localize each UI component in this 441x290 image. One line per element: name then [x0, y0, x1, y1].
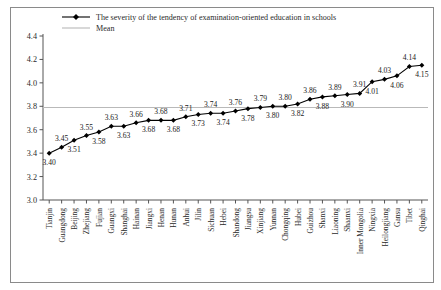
- data-point-label: 3.80: [266, 111, 279, 120]
- data-point-label: 3.58: [92, 137, 105, 146]
- x-axis-tick-label: Zhejiang: [82, 208, 91, 235]
- data-point-label: 3.63: [105, 113, 118, 122]
- data-point-marker: [382, 77, 387, 82]
- y-axis-tick-label: 3.2: [27, 173, 37, 182]
- x-axis-tick-label: Shanghai: [120, 208, 129, 236]
- x-axis-tick-label: Heilongjiang: [381, 208, 390, 247]
- chart-figure: The severity of the tendency of examinat…: [0, 0, 441, 290]
- x-axis-tick-label: Beijing: [70, 208, 79, 230]
- data-point-label: 4.03: [378, 66, 391, 75]
- data-point-label: 3.74: [216, 118, 229, 127]
- data-point-label: 3.80: [279, 93, 292, 102]
- x-axis-tick-label: Tianjin: [45, 208, 54, 229]
- data-point-marker: [345, 92, 350, 97]
- data-point-marker: [72, 138, 77, 143]
- data-point-marker: [121, 124, 126, 129]
- y-axis-tick-label: 3.4: [27, 149, 37, 158]
- data-point-marker: [295, 101, 300, 106]
- data-point-marker: [270, 104, 275, 109]
- y-axis-tick-label: 3.8: [27, 102, 37, 111]
- data-point-marker: [171, 118, 176, 123]
- y-axis-tick-label: 3.6: [27, 126, 37, 135]
- data-point-label: 3.68: [154, 107, 167, 116]
- x-axis-tick-label: Guizhou: [306, 208, 315, 234]
- data-point-label: 4.06: [390, 81, 403, 90]
- data-point-marker: [96, 130, 101, 135]
- x-axis-tick-label: Hebei: [219, 208, 228, 226]
- x-axis-tick-label: Jilin: [194, 208, 203, 221]
- data-point-marker: [320, 94, 325, 99]
- legend-mean-label: Mean: [96, 24, 114, 33]
- legend-series-marker: [73, 14, 79, 20]
- data-point-label: 3.79: [254, 94, 267, 103]
- data-point-label: 3.73: [192, 119, 205, 128]
- data-point-label: 3.74: [204, 100, 217, 109]
- y-axis-tick-label: 4.4: [27, 32, 37, 41]
- data-point-marker: [84, 133, 89, 138]
- data-point-marker: [47, 151, 52, 156]
- x-axis-tick-label: Sichuan: [207, 208, 216, 232]
- data-point-marker: [233, 108, 238, 113]
- x-axis-tick-label: Fujian: [95, 208, 104, 227]
- data-point-marker: [146, 118, 151, 123]
- x-axis-tick-label: Jiangxi: [145, 208, 154, 229]
- data-point-label: 4.01: [365, 87, 378, 96]
- x-axis-tick-label: Chongqing: [281, 208, 290, 241]
- data-point-label: 3.68: [142, 125, 155, 134]
- data-point-label: 3.63: [117, 131, 130, 140]
- data-point-marker: [196, 112, 201, 117]
- x-axis-tick-label: Gansu: [393, 208, 402, 227]
- legend-series-label: The severity of the tendency of examinat…: [96, 13, 336, 22]
- data-point-label: 3.78: [241, 114, 254, 123]
- data-point-label: 3.86: [303, 86, 316, 95]
- data-point-label: 4.15: [415, 70, 428, 79]
- x-axis-tick-label: Shanxi: [318, 208, 327, 229]
- data-point-marker: [134, 120, 139, 125]
- data-point-label: 3.68: [167, 125, 180, 134]
- data-point-label: 3.45: [55, 134, 68, 143]
- x-axis-tick-label: Qinghai: [418, 208, 427, 232]
- x-axis-tick-label: Shaanxi: [343, 208, 352, 232]
- x-axis-tick-label: Yunnan: [269, 208, 278, 231]
- data-point-label: 3.88: [316, 102, 329, 111]
- data-point-marker: [419, 63, 424, 68]
- x-axis-tick-label: Hubei: [294, 208, 303, 226]
- data-point-label: 4.14: [403, 53, 416, 62]
- data-point-marker: [245, 106, 250, 111]
- x-axis-tick-label: Anhui: [182, 208, 191, 226]
- data-point-marker: [183, 114, 188, 119]
- x-axis-tick-label: Ningxia: [368, 207, 377, 232]
- data-point-label: 3.82: [291, 109, 304, 118]
- data-point-label: 3.51: [67, 145, 80, 154]
- y-axis-tick-label: 4.2: [27, 55, 37, 64]
- data-point-marker: [208, 111, 213, 116]
- x-axis-tick-label: Guangxi: [107, 208, 116, 233]
- data-point-label: 3.66: [129, 110, 142, 119]
- data-point-marker: [109, 124, 114, 129]
- x-axis-tick-label: Jiangsu: [244, 208, 253, 230]
- data-point-marker: [283, 104, 288, 109]
- data-point-label: 3.40: [43, 158, 56, 167]
- data-point-marker: [59, 145, 64, 150]
- data-point-marker: [332, 93, 337, 98]
- x-axis-tick-label: Tibet: [405, 207, 414, 223]
- data-point-marker: [221, 111, 226, 116]
- line-chart: The severity of the tendency of examinat…: [0, 0, 441, 290]
- x-axis-tick-label: Inner Mongolia: [356, 207, 365, 254]
- data-point-marker: [308, 97, 313, 102]
- x-axis-tick-label: Hainan: [132, 208, 141, 230]
- y-axis-tick-label: 3.0: [27, 196, 37, 205]
- data-point-marker: [258, 105, 263, 110]
- data-point-label: 3.71: [179, 104, 192, 113]
- data-point-label: 3.90: [341, 100, 354, 109]
- data-point-label: 3.76: [229, 98, 242, 107]
- x-axis-tick-label: Shandong: [232, 208, 241, 238]
- y-axis-tick-label: 4.0: [27, 79, 37, 88]
- x-axis-tick-label: Xinjiang: [256, 208, 265, 234]
- x-axis-tick-label: Henan: [157, 208, 166, 228]
- data-point-marker: [158, 118, 163, 123]
- x-axis-tick-label: Hunan: [169, 208, 178, 228]
- data-point-label: 3.89: [328, 83, 341, 92]
- data-point-label: 3.55: [80, 123, 93, 132]
- x-axis-tick-label: Guangdong: [58, 208, 67, 243]
